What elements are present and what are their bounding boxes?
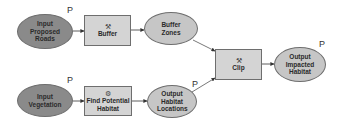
clip-tool-node[interactable]: ⚒ Clip	[215, 49, 262, 80]
model-icon: ⚙	[105, 90, 111, 97]
model-diagram: Input Proposed Roads P ⚒ Buffer Buffer Z…	[0, 0, 341, 130]
output-habitat-locations-node[interactable]: Output Habitat Locations	[147, 85, 197, 118]
node-label: Find Potential Habitat	[85, 97, 131, 112]
node-label: Output Impacted Habitat	[284, 53, 316, 76]
node-label: Output Habitat Locations	[157, 90, 187, 113]
parameter-marker: P	[192, 79, 198, 89]
node-label: Buffer Zones	[157, 21, 185, 36]
node-label: Buffer	[98, 30, 117, 38]
node-label: Input Vegetation	[25, 93, 65, 108]
parameter-marker: P	[67, 75, 73, 85]
buffer-tool-node[interactable]: ⚒ Buffer	[84, 15, 131, 46]
hammer-icon: ⚒	[236, 57, 242, 64]
input-proposed-roads-node[interactable]: Input Proposed Roads	[17, 14, 73, 49]
node-label: Input Proposed Roads	[28, 20, 62, 43]
buffer-zones-node[interactable]: Buffer Zones	[144, 12, 198, 45]
find-potential-habitat-node[interactable]: ⚙ Find Potential Habitat	[84, 86, 132, 116]
hammer-icon: ⚒	[105, 23, 111, 30]
parameter-marker: P	[67, 5, 73, 15]
parameter-marker: P	[319, 39, 325, 49]
edge-zones-clip	[193, 40, 215, 51]
node-label: Clip	[232, 64, 244, 72]
output-impacted-habitat-node[interactable]: Output Impacted Habitat	[274, 47, 326, 82]
input-vegetation-node[interactable]: Input Vegetation	[17, 84, 73, 117]
